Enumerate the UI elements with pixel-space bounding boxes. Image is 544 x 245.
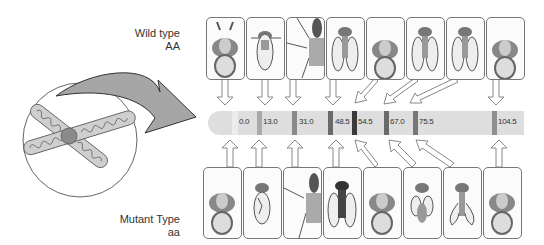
locus-band [413, 111, 418, 135]
locus-band [352, 111, 357, 135]
fly-icon [447, 18, 484, 79]
mutant-trait-box [283, 167, 322, 239]
wild-trait-box [326, 17, 365, 80]
locus-band [232, 111, 238, 135]
wild-trait-box [486, 17, 525, 80]
locus-band [384, 111, 389, 135]
wild-trait-box [286, 17, 325, 80]
fly-leg-icon [284, 168, 321, 238]
fly-icon [407, 18, 444, 79]
fly-head-icon [367, 18, 404, 79]
mutant-trait-box [443, 167, 482, 239]
fly-leg-icon [287, 18, 324, 79]
wild-trait-box [206, 17, 245, 80]
locus-position: 13.0 [263, 117, 277, 126]
mutant-trait-box [323, 167, 362, 239]
locus-band [492, 111, 497, 135]
fly-icon [327, 18, 364, 79]
fly-head-icon [364, 168, 401, 238]
mutant-arrows [222, 140, 507, 167]
fly-dark-body-icon [324, 168, 361, 238]
fly-head-icon [487, 18, 524, 79]
locus-position: 67.0 [390, 117, 404, 126]
locus-position: 48.5 [335, 117, 349, 126]
locus-position: 54.5 [358, 117, 372, 126]
mutant-trait-box [483, 167, 522, 239]
locus-band [292, 111, 297, 135]
wild-arrows [217, 78, 504, 105]
locus-position: 31.0 [299, 117, 313, 126]
mutant-trait-box [203, 167, 242, 239]
wild-trait-box [406, 17, 445, 80]
fly-hairy-icon [244, 168, 281, 238]
fly-curly-wings-icon [444, 168, 481, 238]
mutant-trait-box [243, 167, 282, 239]
wild-trait-box [366, 17, 405, 80]
mutant-trait-box [403, 167, 442, 239]
locus-position: 75.5 [419, 117, 433, 126]
wild-trait-box [446, 17, 485, 80]
fly-icon [247, 18, 284, 79]
locus-position: 0.0 [239, 117, 249, 126]
mutant-trait-box [363, 167, 402, 239]
locus-position: 104.5 [498, 117, 517, 126]
chromosome-map-bar: 0.0 13.0 31.0 48.5 54.5 67.0 75.5 104.5 [208, 111, 524, 135]
locus-band [257, 111, 262, 135]
fly-vestigial-wings-icon [404, 168, 441, 238]
locus-band [328, 111, 333, 135]
wild-trait-box [246, 17, 285, 80]
fly-head-antenna-icon [207, 18, 244, 79]
fly-head-icon [484, 168, 521, 238]
fly-head-icon [204, 168, 241, 238]
